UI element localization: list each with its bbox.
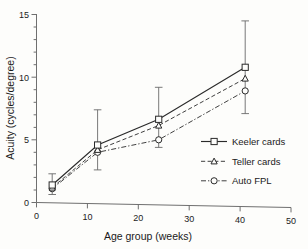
x-tick-label-0: 0 (34, 211, 39, 221)
teller-point-24wk (156, 122, 162, 128)
y-tick-label-10: 10 (19, 73, 29, 83)
legend-entry-auto-fpl[interactable]: Auto FPL (201, 175, 272, 186)
y-tick-label-5: 5 (24, 135, 29, 145)
legend-label-teller-cards: Teller cards (232, 156, 281, 167)
error-bars (48, 21, 249, 195)
x-tick-label-10: 10 (82, 212, 92, 222)
x-tick-label-20: 20 (133, 213, 143, 223)
series-keeler-cards (49, 64, 248, 188)
auto-fpl-point-41wk (242, 88, 248, 94)
chart-legend: Keeler cards Teller cards Auto FPL (201, 136, 286, 186)
chart-canvas: 15 10 5 0 0 10 20 30 40 50 Age group (we… (0, 0, 308, 249)
y-tick-label-0: 0 (24, 198, 29, 208)
keeler-point-24wk (156, 116, 162, 122)
teller-cards-line (52, 79, 245, 188)
x-axis-title: Age group (weeks) (104, 230, 192, 242)
y-axis: 15 10 5 0 (19, 10, 37, 208)
x-axis: 0 10 20 30 40 50 (34, 203, 296, 227)
keeler-cards-line (52, 67, 245, 185)
keeler-point-12wk (95, 142, 101, 148)
error-bar-12wk (94, 110, 102, 170)
auto-fpl-point-24wk (156, 137, 162, 143)
y-axis-title: Acuity (cycles/degree) (4, 56, 16, 159)
acuity-age-line-chart: 15 10 5 0 0 10 20 30 40 50 Age group (we… (0, 0, 308, 249)
x-tick-label-50: 50 (286, 216, 296, 226)
legend-entry-teller-cards[interactable]: Teller cards (201, 156, 281, 167)
legend-entry-keeler-cards[interactable]: Keeler cards (201, 136, 286, 147)
square-marker-icon (211, 138, 217, 144)
x-tick-label-30: 30 (184, 214, 194, 224)
keeler-point-41wk (242, 64, 248, 70)
circle-marker-icon (211, 178, 217, 184)
teller-point-41wk (242, 75, 248, 81)
series-teller-cards (49, 75, 248, 190)
legend-label-keeler-cards: Keeler cards (232, 136, 286, 147)
y-tick-label-15: 15 (19, 10, 29, 20)
legend-label-auto-fpl: Auto FPL (232, 175, 272, 186)
x-axis-line (37, 203, 292, 208)
series-auto-fpl (49, 88, 248, 192)
keeler-point-3wk (49, 182, 55, 188)
x-tick-label-40: 40 (235, 215, 245, 225)
